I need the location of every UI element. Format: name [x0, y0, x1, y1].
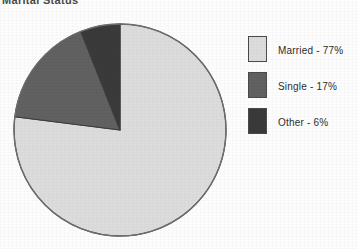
chart-page: Marital Status Married - 77% Single - 17… [0, 0, 358, 249]
legend-label-single: Single - 17% [278, 81, 337, 92]
legend-label-other: Other - 6% [278, 117, 328, 128]
page-title: Marital Status [2, 0, 78, 6]
pie-slice-group [14, 24, 226, 236]
page-title-clip: Marital Status [2, 0, 132, 6]
legend-swatch-single [248, 72, 267, 98]
legend-item-married[interactable]: Married - 77% [248, 36, 356, 72]
legend-swatch-other [248, 108, 267, 134]
chart-legend: Married - 77% Single - 17% Other - 6% [248, 36, 356, 144]
legend-item-other[interactable]: Other - 6% [248, 108, 356, 144]
pie-chart-svg [12, 22, 228, 238]
legend-swatch-married [248, 36, 267, 62]
pie-chart [12, 22, 228, 238]
legend-label-married: Married - 77% [278, 45, 343, 56]
legend-item-single[interactable]: Single - 17% [248, 72, 356, 108]
